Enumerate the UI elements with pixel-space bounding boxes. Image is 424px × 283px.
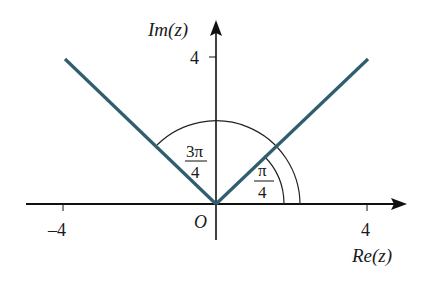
x-tick-label-neg4: –4	[47, 220, 66, 240]
origin-label: O	[194, 212, 207, 232]
diagram-svg: Im(z) 4 –4 4 O Re(z) 3π 4 π 4	[0, 0, 424, 283]
outer-angle-denominator: 4	[191, 163, 200, 182]
ray-3pi-over-4	[65, 59, 216, 204]
complex-plane-diagram: Im(z) 4 –4 4 O Re(z) 3π 4 π 4	[0, 0, 424, 283]
inner-angle-denominator: 4	[258, 183, 267, 202]
inner-angle-numerator: π	[258, 161, 267, 180]
inner-angle-arc	[264, 156, 284, 204]
ray-pi-over-4	[216, 59, 368, 204]
y-tick-label-4: 4	[190, 48, 199, 68]
y-axis-label: Im(z)	[147, 19, 188, 41]
x-axis-label: Re(z)	[351, 245, 392, 267]
outer-angle-numerator: 3π	[186, 142, 204, 161]
x-tick-label-pos4: 4	[361, 220, 370, 240]
